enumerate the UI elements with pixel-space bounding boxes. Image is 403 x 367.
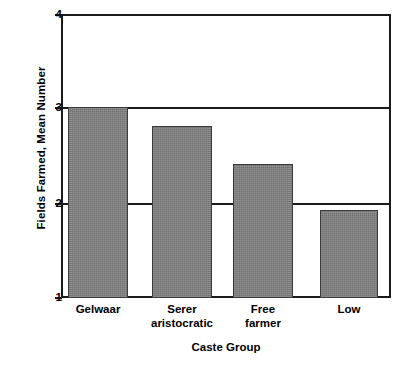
bar-low	[320, 210, 378, 298]
x-tick-label-free-farmer-line-2: farmer	[219, 316, 307, 330]
y-axis-ticks: 4 3 2 1	[0, 0, 62, 367]
x-tick-label-free-farmer-line-1: Free	[219, 302, 307, 316]
x-tick-label-serer-aristocratic-line-1: Serer	[138, 302, 226, 316]
x-tick-label-gelwaar-line-1: Gelwaar	[54, 302, 142, 316]
x-tick-label-low-line-1: Low	[305, 302, 393, 316]
bar-serer-aristocratic	[152, 126, 212, 298]
x-tick-label-serer-aristocratic: Serer aristocratic	[138, 302, 226, 330]
bars-container	[61, 14, 391, 298]
y-tick-label-2: 2	[16, 197, 62, 209]
x-tick-label-low: Low	[305, 302, 393, 316]
bar-gelwaar	[68, 107, 128, 298]
x-tick-label-serer-aristocratic-line-2: aristocratic	[138, 316, 226, 330]
x-axis-ticks: Gelwaar Serer aristocratic Free farmer L…	[61, 302, 391, 344]
x-tick-label-free-farmer: Free farmer	[219, 302, 307, 330]
y-tick-label-4: 4	[16, 8, 62, 20]
bar-chart: Fields Farmed, Mean Number 4 3 2 1 Gelwa…	[0, 0, 403, 367]
x-tick-label-gelwaar: Gelwaar	[54, 302, 142, 316]
bar-free-farmer	[233, 164, 293, 298]
x-axis-title: Caste Group	[61, 340, 391, 354]
y-tick-label-3: 3	[16, 101, 62, 113]
